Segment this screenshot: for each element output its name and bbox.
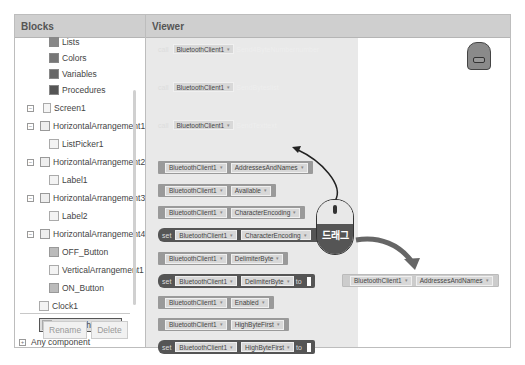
component-dropdown[interactable]: BluetoothClient1▾ bbox=[173, 82, 235, 92]
component-dropdown[interactable]: BluetoothClient1▾ bbox=[165, 254, 227, 264]
getter-block-available[interactable]: BluetoothClient1▾Available▾ bbox=[158, 184, 276, 197]
dropdown-arrow-icon[interactable]: ▾ bbox=[230, 231, 233, 240]
setter-block-highbytefirst[interactable]: setBluetoothClient1▾HighByteFirst▾to bbox=[158, 340, 315, 354]
clock-icon bbox=[39, 301, 49, 311]
tree-item-label: HorizontalArrangement2 bbox=[53, 157, 145, 167]
property-dropdown[interactable]: CharacterEncoding▾ bbox=[241, 230, 311, 240]
backpack-icon[interactable] bbox=[467, 42, 491, 70]
tree-item-label: Clock1 bbox=[52, 301, 78, 311]
component-dropdown[interactable]: BluetoothClient1▾ bbox=[175, 230, 237, 240]
tree-item-label: Label2 bbox=[62, 211, 88, 221]
call-keyword: call bbox=[158, 122, 169, 129]
property-dropdown[interactable]: CharacterEncoding▾ bbox=[231, 208, 301, 218]
tree-item-clock1[interactable]: Clock1 bbox=[39, 298, 78, 314]
dropdown-arrow-icon[interactable]: ▾ bbox=[227, 83, 230, 92]
property-dropdown[interactable]: AddressesAndNames▾ bbox=[231, 163, 308, 173]
dropdown-arrow-icon[interactable]: ▾ bbox=[264, 186, 267, 195]
tree-item-listpicker1[interactable]: ListPicker1 bbox=[49, 136, 104, 152]
dropdown-arrow-icon[interactable]: ▾ bbox=[220, 208, 223, 217]
setter-block-characterencoding[interactable]: setBluetoothClient1▾CharacterEncoding▾ bbox=[158, 228, 326, 242]
dropdown-arrow-icon[interactable]: ▾ bbox=[276, 254, 279, 263]
arg-label: number bbox=[295, 46, 319, 53]
dropdown-arrow-icon[interactable]: ▾ bbox=[220, 298, 223, 307]
dropdown-arrow-icon[interactable]: ▾ bbox=[230, 343, 233, 352]
setter-block-delimiterbyte[interactable]: setBluetoothClient1▾DelimiterByte▾to bbox=[158, 274, 315, 288]
dropdown-arrow-icon[interactable]: ▾ bbox=[227, 45, 230, 54]
getter-block-highbytefirst[interactable]: BluetoothClient1▾HighByteFirst▾ bbox=[158, 318, 289, 331]
to-keyword: to bbox=[296, 344, 302, 351]
component-dropdown[interactable]: BluetoothClient1▾ bbox=[175, 276, 237, 286]
blocks-panel-title: Blocks bbox=[15, 15, 145, 38]
component-dropdown[interactable]: BluetoothClient1▾ bbox=[165, 208, 227, 218]
component-dropdown[interactable]: BluetoothClient1▾ bbox=[165, 298, 227, 308]
tree-item-procedures[interactable]: Procedures bbox=[49, 82, 105, 98]
call-block-send4bytenumber[interactable]: callBluetoothClient1▾Send4ByteNumbernumb… bbox=[158, 44, 298, 54]
component-dropdown[interactable]: BluetoothClient1▾ bbox=[350, 276, 412, 286]
tree-item-horizontalarrangement1[interactable]: −HorizontalArrangement1 bbox=[27, 118, 145, 134]
component-dropdown[interactable]: BluetoothClient1▾ bbox=[165, 163, 227, 173]
call-block-sendtext[interactable]: callBluetoothClient1▾SendTexttext bbox=[158, 120, 270, 130]
getter-block-addressesandnames[interactable]: BluetoothClient1▾AddressesAndNames▾ bbox=[158, 161, 313, 174]
dropdown-arrow-icon[interactable]: ▾ bbox=[220, 186, 223, 195]
dropdown-arrow-icon[interactable]: ▾ bbox=[287, 343, 290, 352]
component-dropdown[interactable]: BluetoothClient1▾ bbox=[165, 320, 227, 330]
tree-item-on-button[interactable]: ON_Button bbox=[49, 280, 104, 296]
dropdown-arrow-icon[interactable]: ▾ bbox=[220, 163, 223, 172]
dropdown-arrow-icon[interactable]: ▾ bbox=[486, 276, 489, 285]
dropdown-arrow-icon[interactable]: ▾ bbox=[301, 163, 304, 172]
tree-item-horizontalarrangement2[interactable]: −HorizontalArrangement2 bbox=[27, 154, 145, 170]
rename-button[interactable]: Rename bbox=[43, 321, 87, 339]
collapse-icon[interactable]: − bbox=[27, 159, 34, 166]
tree-item-horizontalarrangement3[interactable]: −HorizontalArrangement3 bbox=[27, 190, 145, 206]
tree-item-label: HorizontalArrangement4 bbox=[53, 229, 145, 239]
button-icon bbox=[49, 247, 59, 257]
getter-block-enabled[interactable]: BluetoothClient1▾Enabled▾ bbox=[158, 296, 274, 309]
procedures-icon bbox=[49, 85, 59, 95]
tree-item-label1[interactable]: Label1 bbox=[49, 172, 88, 188]
component-dropdown[interactable]: BluetoothClient1▾ bbox=[165, 186, 227, 196]
dropdown-arrow-icon[interactable]: ▾ bbox=[277, 320, 280, 329]
tree-item-label: ListPicker1 bbox=[62, 139, 104, 149]
component-dropdown[interactable]: BluetoothClient1▾ bbox=[173, 44, 235, 54]
collapse-icon[interactable]: − bbox=[27, 123, 34, 130]
to-keyword: to bbox=[296, 278, 302, 285]
tree-item-variables[interactable]: Variables bbox=[49, 66, 97, 82]
collapse-icon[interactable]: − bbox=[27, 195, 34, 202]
collapse-icon[interactable]: − bbox=[27, 231, 34, 238]
dropdown-arrow-icon[interactable]: ▾ bbox=[220, 254, 223, 263]
tree-item-screen1[interactable]: −Screen1 bbox=[27, 100, 86, 116]
call-keyword: call bbox=[158, 46, 169, 53]
property-dropdown[interactable]: DelimiterByte▾ bbox=[241, 276, 294, 286]
dragged-block-addresses-and-names[interactable]: BluetoothClient1▾AddressesAndNames▾ bbox=[342, 274, 499, 287]
dropdown-arrow-icon[interactable]: ▾ bbox=[287, 277, 290, 286]
collapse-icon[interactable]: − bbox=[27, 105, 34, 112]
component-dropdown[interactable]: BluetoothClient1▾ bbox=[175, 342, 237, 352]
property-dropdown[interactable]: DelimiterByte▾ bbox=[231, 254, 284, 264]
property-dropdown[interactable]: Available▾ bbox=[231, 186, 271, 196]
dropdown-arrow-icon[interactable]: ▾ bbox=[230, 277, 233, 286]
property-dropdown[interactable]: HighByteFirst▾ bbox=[231, 320, 284, 330]
expand-icon[interactable]: + bbox=[19, 339, 26, 346]
tree-item-verticalarrangement1[interactable]: VerticalArrangement1 bbox=[49, 262, 144, 278]
screen-icon bbox=[43, 103, 51, 113]
dropdown-arrow-icon[interactable]: ▾ bbox=[262, 298, 265, 307]
tree-item-lists[interactable]: Lists bbox=[49, 34, 79, 50]
property-dropdown[interactable]: Enabled▾ bbox=[231, 298, 269, 308]
delete-button[interactable]: Delete bbox=[91, 321, 128, 339]
dropdown-arrow-icon[interactable]: ▾ bbox=[293, 208, 296, 217]
tree-scrollbar[interactable] bbox=[133, 90, 136, 305]
getter-block-delimiterbyte[interactable]: BluetoothClient1▾DelimiterByte▾ bbox=[158, 252, 288, 265]
dropdown-arrow-icon[interactable]: ▾ bbox=[227, 121, 230, 130]
dropdown-arrow-icon[interactable]: ▾ bbox=[405, 276, 408, 285]
tree-item-off-button[interactable]: OFF_Button bbox=[49, 244, 108, 260]
dropdown-arrow-icon[interactable]: ▾ bbox=[304, 231, 307, 240]
dropdown-arrow-icon[interactable]: ▾ bbox=[220, 320, 223, 329]
tree-item-horizontalarrangement4[interactable]: −HorizontalArrangement4 bbox=[27, 226, 145, 242]
component-dropdown[interactable]: BluetoothClient1▾ bbox=[173, 120, 235, 130]
property-dropdown[interactable]: AddressesAndNames▾ bbox=[416, 276, 493, 286]
getter-block-characterencoding[interactable]: BluetoothClient1▾CharacterEncoding▾ bbox=[158, 206, 305, 219]
tree-item-colors[interactable]: Colors bbox=[49, 50, 87, 66]
tree-item-label2[interactable]: Label2 bbox=[49, 208, 88, 224]
property-dropdown[interactable]: HighByteFirst▾ bbox=[241, 342, 294, 352]
call-block-sendbytes[interactable]: callBluetoothClient1▾SendByteslist bbox=[158, 82, 270, 92]
